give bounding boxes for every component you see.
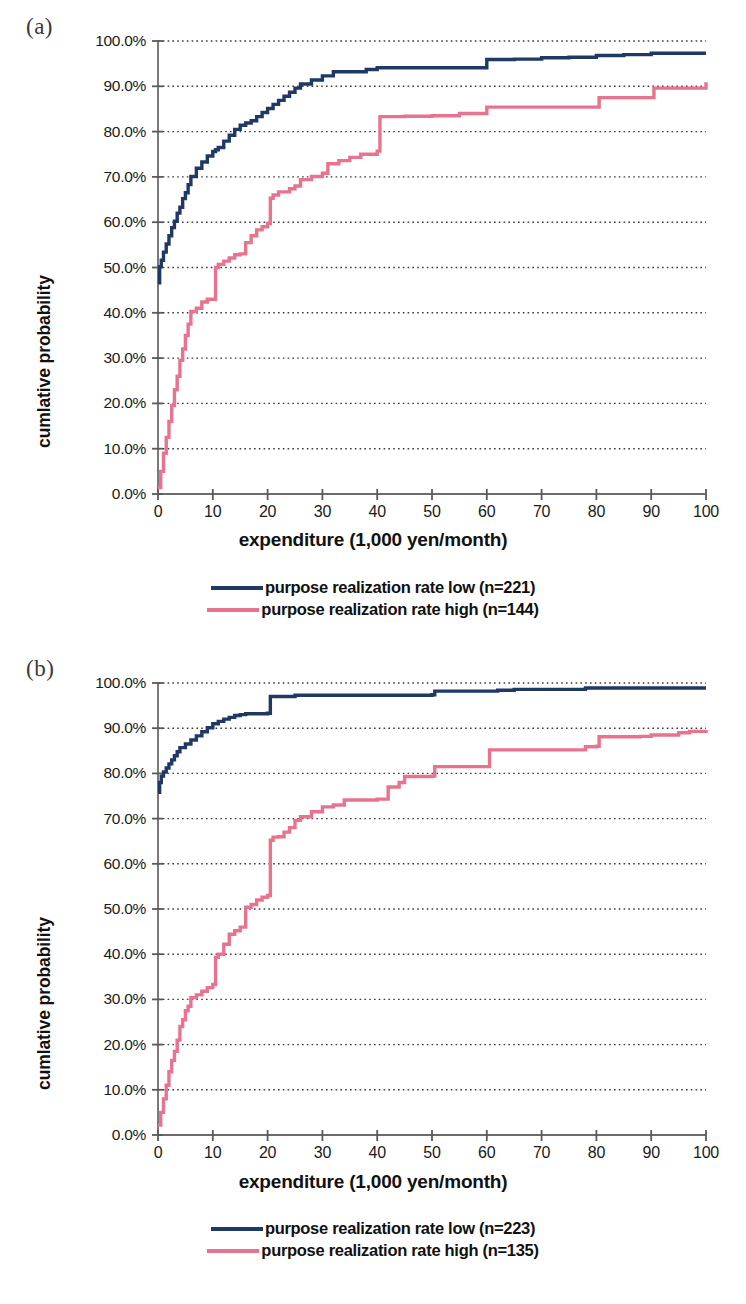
legend-item: purpose realization rate low (n=223) xyxy=(211,1219,535,1238)
series-line xyxy=(158,82,706,487)
figure-panel-a: (a) cumlative probability 0.0%10.0%20.0%… xyxy=(0,0,746,652)
legend-a: purpose realization rate low (n=221)purp… xyxy=(0,578,746,619)
figure-panel-b: (b) cumlative probability 0.0%10.0%20.0%… xyxy=(0,645,746,1304)
series-line xyxy=(158,53,706,283)
legend-label: purpose realization rate low (n=221) xyxy=(265,578,535,597)
legend-color-swatch xyxy=(207,1249,259,1253)
legend-color-swatch xyxy=(211,1227,263,1231)
legend-color-swatch xyxy=(207,608,259,612)
legend-label: purpose realization rate high (n=144) xyxy=(261,600,538,619)
series-line xyxy=(158,730,706,1125)
legend-b: purpose realization rate low (n=223)purp… xyxy=(0,1219,746,1260)
legend-item: purpose realization rate low (n=221) xyxy=(211,578,535,597)
plot-area-a xyxy=(0,0,746,514)
x-axis-label-a: expenditure (1,000 yen/month) xyxy=(0,529,746,551)
legend-item: purpose realization rate high (n=135) xyxy=(207,1241,538,1260)
legend-label: purpose realization rate low (n=223) xyxy=(265,1219,535,1238)
legend-label: purpose realization rate high (n=135) xyxy=(261,1241,538,1260)
x-axis-label-b: expenditure (1,000 yen/month) xyxy=(0,1171,746,1193)
legend-item: purpose realization rate high (n=144) xyxy=(207,600,538,619)
legend-color-swatch xyxy=(211,586,263,590)
plot-area-b xyxy=(0,645,746,1155)
